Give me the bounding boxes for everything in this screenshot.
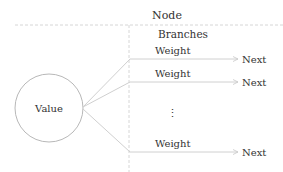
value-label: Value: [34, 103, 63, 114]
node-diagram: Node Branches Value Weight Next Weight N…: [0, 0, 283, 172]
node-label: Node: [152, 9, 182, 22]
weight-label: Weight: [155, 138, 190, 149]
weight-label: Weight: [155, 68, 190, 79]
next-label: Next: [242, 77, 266, 88]
weight-label: Weight: [155, 45, 190, 56]
branches-label: Branches: [158, 28, 208, 40]
branch-arrow: [83, 59, 238, 107]
ellipsis-icon: ⋮: [167, 107, 178, 120]
next-label: Next: [242, 54, 266, 65]
next-label: Next: [242, 147, 266, 158]
branch-2: Weight Next: [83, 68, 266, 107]
branch-arrow: [83, 82, 238, 107]
